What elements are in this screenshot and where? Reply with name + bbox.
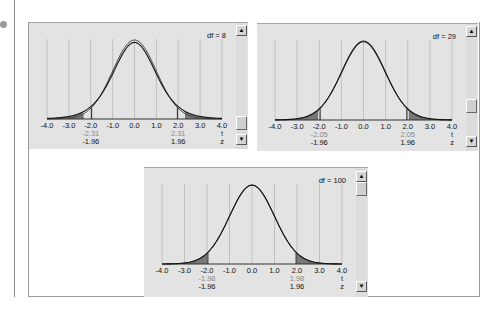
bullet-icon: [0, 21, 7, 28]
chart-title: df = 100: [319, 176, 346, 185]
z-row-label: z: [450, 138, 454, 147]
chart-panel-df8: df = 8-4.0-3.0-2.0-1.00.01.02.03.04.0-2.…: [29, 22, 248, 149]
chart-panel-df100: df = 100-4.0-3.0-2.0-1.00.01.02.03.04.0-…: [144, 167, 368, 297]
z-critical-label: -1.96: [311, 138, 328, 147]
scroll-thumb[interactable]: [356, 182, 367, 196]
x-tick-label: 1.0: [269, 266, 279, 275]
chart-title: df = 8: [207, 31, 226, 40]
scroll-thumb[interactable]: [236, 116, 247, 130]
scroll-thumb[interactable]: [466, 99, 477, 113]
x-tick-label: 0.0: [358, 122, 368, 131]
z-row-label: z: [220, 137, 224, 146]
x-tick-label: 3.0: [195, 121, 205, 130]
x-tick-label: -1.0: [106, 121, 119, 130]
scroll-down-button[interactable]: ▼: [466, 136, 477, 147]
chart-title: df = 29: [433, 32, 456, 41]
scrollbar[interactable]: ▲ ▼: [236, 23, 247, 149]
z-critical-label: 1.96: [400, 138, 415, 147]
scroll-up-button[interactable]: ▲: [356, 171, 367, 182]
x-tick-label: -3.0: [291, 122, 304, 131]
z-critical-label: 1.96: [171, 137, 186, 146]
x-tick-label: -3.0: [62, 121, 75, 130]
x-tick-label: -1.0: [223, 266, 236, 275]
x-tick-label: -4.0: [41, 121, 54, 130]
x-tick-label: 1.0: [380, 122, 390, 131]
chart-svg: df = 100-4.0-3.0-2.0-1.00.01.02.03.04.0-…: [144, 168, 356, 297]
x-tick-label: 3.0: [425, 122, 435, 131]
x-tick-label: 1.0: [151, 121, 161, 130]
scroll-down-button[interactable]: ▼: [356, 281, 367, 292]
z-row-label: z: [340, 282, 344, 291]
x-tick-label: -4.0: [156, 266, 169, 275]
x-tick-label: 0.0: [247, 266, 257, 275]
z-critical-label: -1.96: [198, 282, 215, 291]
x-tick-label: 0.0: [129, 121, 139, 130]
scroll-down-button[interactable]: ▼: [236, 134, 247, 145]
x-tick-label: -4.0: [269, 122, 282, 131]
x-tick-label: -1.0: [335, 122, 348, 131]
x-tick-label: -3.0: [178, 266, 191, 275]
chart-svg: df = 8-4.0-3.0-2.0-1.00.01.02.03.04.0-2.…: [29, 23, 236, 149]
z-critical-label: 1.96: [290, 282, 305, 291]
scrollbar[interactable]: ▲ ▼: [356, 168, 367, 297]
scrollbar[interactable]: ▲ ▼: [466, 24, 477, 151]
z-critical-label: -1.96: [82, 137, 99, 146]
left-margin-rule: [14, 0, 15, 297]
x-tick-label: 3.0: [314, 266, 324, 275]
scroll-up-button[interactable]: ▲: [236, 25, 247, 36]
chart-svg: df = 29-4.0-3.0-2.0-1.00.01.02.03.04.0-2…: [257, 24, 466, 151]
scroll-up-button[interactable]: ▲: [466, 26, 477, 37]
chart-panel-df29: df = 29-4.0-3.0-2.0-1.00.01.02.03.04.0-2…: [257, 23, 478, 151]
